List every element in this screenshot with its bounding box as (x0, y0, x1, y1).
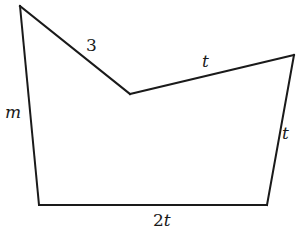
edge-top-right (130, 55, 294, 94)
pentagon-diagram: 3 t m t 2t (0, 0, 298, 229)
label-side-top-left: 3 (86, 35, 97, 55)
label-bottom-text: 2 (153, 210, 164, 229)
label-side-right: t (282, 123, 289, 143)
edge-left (20, 6, 39, 205)
label-side-left: m (5, 102, 21, 122)
edge-top-left (20, 6, 130, 94)
label-side-top-right: t (202, 51, 209, 71)
label-side-bottom: 2t (153, 210, 171, 229)
edge-right (267, 55, 294, 205)
label-bottom-variable: t (164, 210, 171, 229)
